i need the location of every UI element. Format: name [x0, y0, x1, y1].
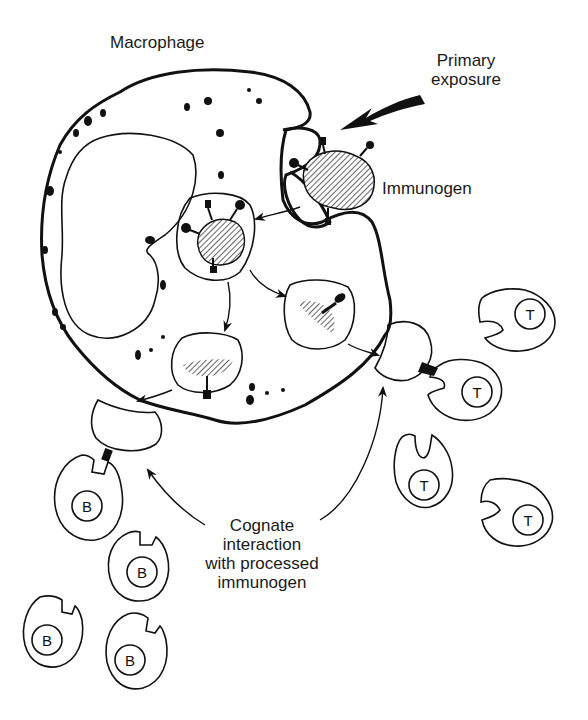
cognate-label-line2: interaction: [223, 535, 301, 554]
presentation-site-right: [375, 322, 438, 381]
t-cell-letter: T: [523, 512, 532, 529]
b-cell: B: [106, 613, 167, 689]
t-cell-bound: T: [428, 359, 502, 420]
b-cell-letter: B: [125, 652, 135, 669]
b-cell-bound: B: [55, 455, 123, 540]
immunogen-particle: [303, 151, 374, 209]
macrophage-label: Macrophage: [110, 33, 205, 52]
t-cell: T: [481, 479, 553, 546]
t-cell: T: [394, 434, 452, 507]
t-cell-letter: T: [419, 477, 428, 494]
b-cell-letter: B: [137, 564, 147, 581]
cognate-label-line4: immunogen: [218, 573, 307, 592]
immune-response-diagram: Macrophage Primary exposure Immunogen Co…: [0, 0, 588, 720]
primary-exposure-label-line2: exposure: [431, 70, 501, 89]
t-cell-letter: T: [525, 306, 534, 323]
cognate-arrows: [148, 388, 383, 525]
t-cell: T: [479, 289, 555, 351]
b-cell-letter: B: [82, 498, 92, 515]
cognate-label-line1: Cognate: [230, 516, 294, 535]
primary-exposure-label-line1: Primary: [437, 51, 496, 70]
t-cell-letter: T: [472, 384, 481, 401]
cytoplasmic-granules: [42, 88, 285, 405]
processing-arrows: [138, 207, 378, 401]
cognate-label-line3: with processed: [204, 554, 318, 573]
b-cell: B: [108, 531, 168, 601]
b-cell: B: [23, 596, 82, 667]
phagolysosome-processed-bottom: [172, 333, 243, 399]
b-cell-letter: B: [42, 632, 52, 649]
presentation-site-left: [92, 400, 162, 462]
immunogen-label: Immunogen: [382, 179, 472, 198]
phagolysosome-processed-right: [284, 280, 354, 349]
primary-exposure-arrow: [340, 95, 425, 130]
